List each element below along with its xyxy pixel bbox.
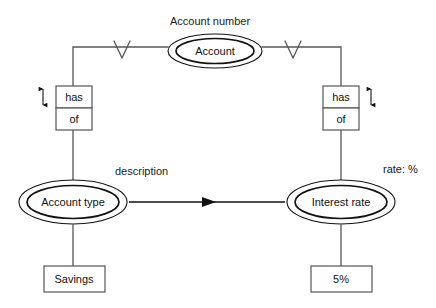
relationship-left-label-has: has [65, 92, 83, 103]
entity-label-account-type: Account type [41, 197, 105, 208]
attribute-label-rate-percent: rate: % [383, 164, 418, 175]
relationship-right-label-of: of [336, 114, 345, 125]
cardinality-marker-left [114, 41, 130, 58]
relationship-left-label-of: of [69, 114, 78, 125]
relationship-right-label-has: has [332, 92, 350, 103]
er-diagram-canvas: Account number Account has of has of des… [0, 0, 436, 308]
cardinality-marker-right [285, 41, 301, 58]
entity-label-interest-rate: Interest rate [312, 197, 371, 208]
value-label-rate: 5% [333, 274, 349, 285]
relationship-label-description: description [115, 166, 168, 177]
description-arrow-shape [129, 197, 285, 207]
entity-label-account: Account [195, 46, 235, 57]
value-label-savings: Savings [54, 274, 93, 285]
attribute-label-account-number: Account number [170, 16, 250, 27]
